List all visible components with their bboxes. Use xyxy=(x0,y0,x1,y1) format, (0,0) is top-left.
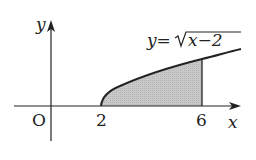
shaded-area xyxy=(101,59,202,106)
y-axis-label: y xyxy=(35,14,46,34)
graph-canvas: y x O 2 6 y= x−2 xyxy=(0,0,256,160)
origin-label: O xyxy=(32,110,46,130)
x-axis-label: x xyxy=(228,112,238,132)
tick-label-2: 2 xyxy=(96,110,107,130)
function-label: y= x−2 xyxy=(146,30,241,50)
svg-text:y=: y= xyxy=(146,30,171,50)
svg-text:x−2: x−2 xyxy=(188,30,223,50)
tick-label-6: 6 xyxy=(196,110,207,130)
